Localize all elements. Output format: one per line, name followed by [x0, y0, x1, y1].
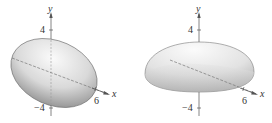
left-ellipsoid-graphic: [0, 0, 136, 123]
y-axis-label: y: [196, 4, 200, 14]
x-axis-label: x: [112, 89, 116, 99]
y-tick-neg4: −4: [182, 103, 193, 113]
left-ellipsoid-plot: y 4 −4 6 x: [0, 0, 136, 123]
y-tick-neg4: −4: [34, 103, 45, 113]
y-tick-4: 4: [188, 25, 193, 35]
y-tick-4: 4: [40, 25, 45, 35]
y-axis-label: y: [48, 4, 52, 14]
x-tick-6: 6: [242, 96, 247, 106]
right-ellipsoid-plot: y 4 −4 6 x: [136, 0, 272, 123]
right-ellipsoid-graphic: [136, 0, 272, 123]
x-axis-label: x: [260, 89, 264, 99]
x-tick-6: 6: [94, 96, 99, 106]
